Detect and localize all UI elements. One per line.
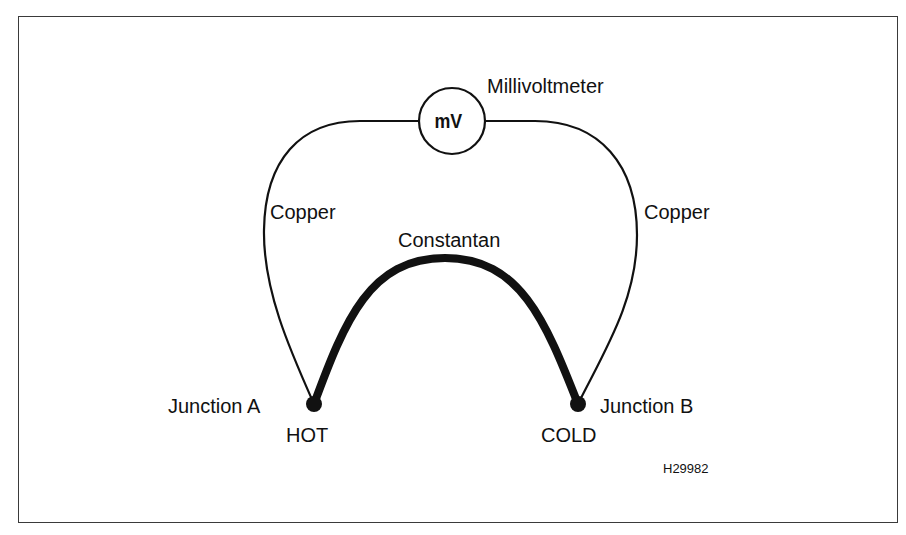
left-copper-label: Copper [270, 202, 336, 222]
constantan-wire [314, 258, 578, 404]
millivoltmeter-label: Millivoltmeter [487, 76, 604, 96]
junction-b-dot [570, 396, 586, 412]
junction-a-state: HOT [286, 425, 328, 445]
figure-code: H29982 [663, 462, 709, 475]
junction-b-label: Junction B [600, 396, 693, 416]
thermocouple-circuit [0, 0, 906, 535]
meter-symbol: mV [434, 110, 462, 131]
right-copper-label: Copper [644, 202, 710, 222]
junction-a-dot [306, 396, 322, 412]
junction-a-label: Junction A [168, 396, 260, 416]
left-copper-wire [264, 121, 418, 404]
constantan-label: Constantan [398, 230, 500, 250]
junction-b-state: COLD [541, 425, 597, 445]
